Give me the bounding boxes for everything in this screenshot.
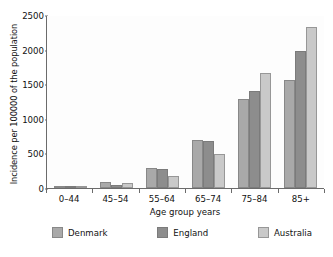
bar-group [284, 16, 317, 188]
x-axis-tick-label: 85+ [278, 194, 324, 204]
x-axis-tick-mark [231, 189, 232, 193]
x-axis-tick-label: 65–74 [185, 194, 231, 204]
legend-label: Australia [274, 228, 312, 238]
bar [238, 99, 249, 188]
bar [192, 140, 203, 188]
bar-groups [47, 16, 324, 188]
y-axis-tick-label: 1000 [16, 115, 44, 125]
bar [306, 27, 317, 188]
bar [122, 183, 133, 188]
bar [260, 73, 271, 188]
bar [214, 154, 225, 188]
bar [168, 176, 179, 188]
bar [76, 186, 87, 188]
bar [65, 186, 76, 188]
bar [54, 186, 65, 188]
x-axis-tick-label: 45–54 [92, 194, 138, 204]
plot-area [46, 16, 324, 189]
x-axis-tick-label: 75–84 [231, 194, 277, 204]
bar [111, 185, 122, 188]
y-axis-tick-label: 1500 [16, 80, 44, 90]
legend-item: England [157, 227, 208, 238]
x-axis-tick-mark [324, 189, 325, 193]
x-axis-tick-mark [46, 189, 47, 193]
bar [249, 91, 260, 188]
legend-swatch [52, 227, 63, 238]
x-axis-tick-mark [92, 189, 93, 193]
bar [157, 169, 168, 188]
bar-chart-figure: Incidence per 100000 of the population 0… [0, 0, 333, 257]
x-axis-title: Age group years [46, 207, 324, 217]
bar [284, 80, 295, 188]
y-axis-tick-label: 500 [16, 149, 44, 159]
y-axis-tick-label: 0 [16, 184, 44, 194]
x-axis-tick-mark [139, 189, 140, 193]
y-axis-tick-labels: 05001000150020002500 [14, 0, 44, 210]
legend-swatch [157, 227, 168, 238]
legend-item: Denmark [52, 227, 108, 238]
legend-label: Denmark [68, 228, 108, 238]
bar [146, 168, 157, 188]
bar-group [192, 16, 225, 188]
legend-label: England [173, 228, 208, 238]
legend-swatch [258, 227, 269, 238]
bar [203, 141, 214, 188]
bar-group [100, 16, 133, 188]
bar-group [238, 16, 271, 188]
x-axis-tick-label: 55–64 [139, 194, 185, 204]
chart-legend: DenmarkEnglandAustralia [52, 227, 312, 238]
x-axis-tick-label: 0–44 [46, 194, 92, 204]
bar [100, 182, 111, 188]
y-axis-tick-label: 2500 [16, 11, 44, 21]
bar [295, 51, 306, 188]
y-axis-tick-label: 2000 [16, 46, 44, 56]
bar-group [146, 16, 179, 188]
x-axis-tick-labels: 0–4445–5455–6465–7475–8485+ [46, 194, 324, 204]
x-axis-tick-mark [185, 189, 186, 193]
legend-item: Australia [258, 227, 312, 238]
x-axis-tick-mark [278, 189, 279, 193]
bar-group [54, 16, 87, 188]
